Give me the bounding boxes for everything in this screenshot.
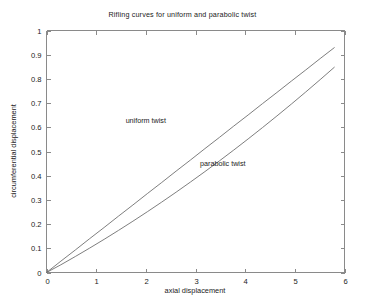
x-tick-label: 4 [243, 277, 247, 286]
x-tick-label: 2 [144, 277, 148, 286]
y-tick-label: 0.8 [31, 75, 42, 84]
y-tick-label: 1 [37, 27, 41, 36]
x-tick-label: 6 [343, 277, 347, 286]
y-axis-title: circumferential displacement [9, 104, 18, 198]
y-tick-label: 0.4 [31, 172, 42, 181]
plot-background [46, 30, 344, 272]
figure-canvas: Rifling curves for uniform and parabolic… [0, 0, 365, 306]
y-tick-label: 0.5 [31, 148, 42, 157]
y-tick-label: 0.3 [31, 196, 42, 205]
y-tick-label: 0 [37, 269, 41, 278]
x-tick-label: 3 [194, 277, 198, 286]
x-axis-tick-labels: 0123456 [45, 277, 347, 286]
y-tick-label: 0.9 [31, 51, 42, 60]
y-axis-tick-labels: 00.10.20.30.40.50.60.70.80.91 [31, 27, 42, 278]
y-tick-label: 0.2 [31, 220, 42, 229]
plot-area: 0123456 00.10.20.30.40.50.60.70.80.91 un… [0, 0, 365, 306]
annotation-label: parabolic twist [200, 159, 246, 168]
x-tick-label: 0 [45, 277, 49, 286]
y-tick-label: 0.6 [31, 123, 42, 132]
x-tick-label: 1 [94, 277, 98, 286]
x-axis-title: axial displacement [165, 286, 226, 295]
y-tick-label: 0.7 [31, 99, 42, 108]
x-tick-label: 5 [293, 277, 297, 286]
annotation-label: uniform twist [126, 116, 166, 125]
y-tick-label: 0.1 [31, 244, 42, 253]
